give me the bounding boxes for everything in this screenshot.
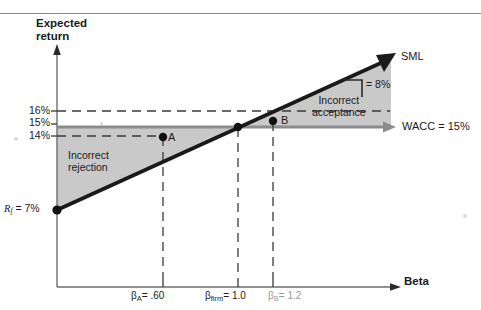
point-a-label: A (168, 131, 175, 143)
sml-line-label: SML (401, 50, 424, 62)
point-b-label: B (281, 114, 288, 126)
beta-firm-subscript: firm (211, 294, 224, 303)
y-tick-label-16: 16% (18, 105, 50, 117)
y-axis-arrowhead (53, 44, 61, 55)
y-tick-label-risk-free: Rf = 7% (4, 203, 40, 216)
incorrect-rejection-line2: rejection (68, 161, 108, 173)
x-tick-label-beta-b: βB= 1.2 (268, 290, 301, 303)
y-axis-title-line1: Expected (36, 17, 87, 29)
risk-free-point-marker (52, 205, 61, 214)
firm-point-marker (234, 123, 242, 131)
region-label-incorrect-rejection: Incorrect rejection (68, 150, 109, 174)
region-label-incorrect-acceptance: Incorrect acceptance (312, 95, 366, 119)
y-axis-title-line2: return (36, 30, 69, 42)
incorrect-acceptance-line1: Incorrect (318, 94, 359, 106)
x-axis-arrowhead (390, 283, 401, 291)
y-axis-title: Expected return (36, 17, 87, 43)
beta-firm-value: = 1.0 (223, 290, 246, 301)
incorrect-acceptance-line2: acceptance (312, 106, 366, 118)
y-tick-label-15: 15% (18, 117, 50, 129)
risk-free-value: = 7% (13, 202, 40, 214)
sml-figure: Expected return Beta 16% 15% 14% Rf = 7%… (0, 0, 481, 310)
beta-a-value: = .60 (142, 290, 165, 301)
x-tick-label-beta-a: βA= .60 (131, 290, 164, 303)
wacc-line-label: WACC = 15% (402, 120, 470, 132)
x-tick-label-beta-firm: βfirm= 1.0 (205, 290, 246, 303)
rise-annotation-label: = 8% (366, 79, 390, 91)
point-b-marker[interactable] (269, 117, 277, 125)
y-tick-label-14: 14% (18, 130, 50, 142)
incorrect-rejection-line1: Incorrect (68, 149, 109, 161)
point-a-marker[interactable] (159, 133, 167, 141)
x-axis-title: Beta (404, 275, 429, 288)
beta-b-value: = 1.2 (279, 290, 302, 301)
